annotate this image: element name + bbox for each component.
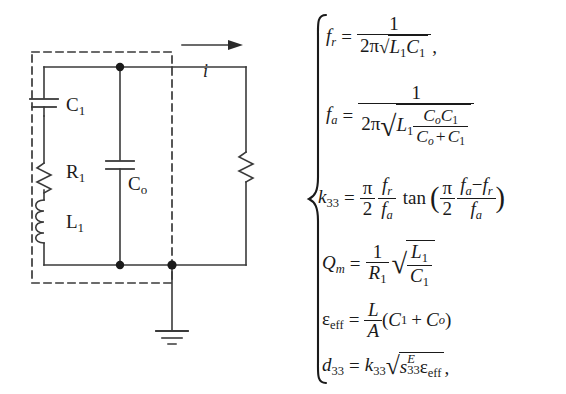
qm-one-over-r1: 1 R1 bbox=[366, 242, 390, 286]
circuit-diagram: C1 R1 L1 Co i bbox=[0, 0, 300, 394]
k33-inner-pi-over-2: π 2 bbox=[440, 178, 456, 219]
fr-denominator: 2π√L1C1 bbox=[357, 34, 431, 60]
epseff-co: C bbox=[426, 309, 439, 331]
equation-fa: fa = 1 2π√L1CoC1Co+C1 bbox=[326, 83, 474, 148]
epseff-l: L bbox=[364, 300, 382, 320]
k33-delta-fraction: fa−fr fa bbox=[457, 175, 495, 222]
qm-radical: √L1C1 bbox=[391, 240, 435, 289]
equation-qm: Qm = 1 R1 √L1C1 bbox=[322, 240, 435, 289]
k33-inner-two: 2 bbox=[440, 198, 456, 219]
fr-trailing-comma: , bbox=[431, 36, 437, 60]
qm-equals: = bbox=[345, 253, 366, 275]
current-arrow-head bbox=[228, 40, 243, 50]
k33-pi: π bbox=[360, 178, 376, 198]
junction-dot-bottom-co bbox=[116, 261, 124, 269]
epseff-c1: C bbox=[388, 309, 401, 331]
equation-d33: d33 = k33 √sE33εeff , bbox=[322, 351, 449, 381]
equation-fr: fr = 1 2π√L1C1 , bbox=[326, 14, 437, 60]
circuit-svg: C1 R1 L1 Co i bbox=[0, 0, 300, 394]
fa-lhs: fa bbox=[326, 103, 338, 128]
fa-numerator: 1 bbox=[358, 83, 474, 103]
fr-fraction: 1 2π√L1C1 bbox=[357, 14, 431, 60]
d33-equals: = bbox=[344, 355, 365, 377]
fa-equals: = bbox=[338, 105, 359, 127]
fr-numerator: 1 bbox=[357, 14, 431, 34]
label-co: Co bbox=[128, 173, 147, 197]
k33-equals: = bbox=[339, 187, 360, 209]
fa-inner-den: Co+C1 bbox=[413, 126, 468, 148]
k33-lhs: k33 bbox=[318, 186, 339, 211]
load-resistor-zigzag bbox=[239, 152, 253, 182]
k33-fa: fa bbox=[378, 198, 396, 222]
label-r1: R1 bbox=[66, 161, 85, 185]
k33-paren-close: ) bbox=[496, 182, 506, 214]
qm-c1: C1 bbox=[407, 265, 432, 289]
qm-l1: L1 bbox=[407, 242, 432, 265]
d33-k33: k33 bbox=[365, 354, 386, 379]
fa-denominator: 2π√L1CoC1Co+C1 bbox=[358, 103, 474, 148]
qm-r1: R1 bbox=[366, 262, 390, 286]
epseff-lhs: εeff bbox=[322, 308, 344, 333]
equation-eps-eff: εeff = L A ( C1 + Co ) bbox=[322, 300, 451, 341]
label-c1: C1 bbox=[66, 94, 85, 118]
equation-group: fr = 1 2π√L1C1 , fa = 1 2π√L1CoC1Co+C1 k… bbox=[300, 0, 566, 394]
k33-delta-den: fa bbox=[457, 198, 495, 222]
label-current-i: i bbox=[203, 61, 208, 81]
fa-radicand: L1CoC1Co+C1 bbox=[396, 104, 472, 148]
k33-tan: tan bbox=[396, 187, 430, 209]
epseff-equals: = bbox=[344, 309, 365, 331]
junction-dot-top bbox=[116, 63, 124, 71]
fa-inner-fraction: CoC1Co+C1 bbox=[413, 106, 468, 148]
d33-radicand: sE33εeff bbox=[399, 352, 445, 381]
d33-radical: √sE33εeff bbox=[386, 351, 445, 381]
fr-equals: = bbox=[336, 26, 357, 48]
dashed-boundary-box bbox=[32, 52, 172, 283]
junction-dot-ground bbox=[167, 260, 176, 269]
qm-radical-sign: √ bbox=[391, 248, 407, 280]
fa-fraction: 1 2π√L1CoC1Co+C1 bbox=[358, 83, 474, 148]
k33-inner-pi: π bbox=[440, 178, 456, 198]
qm-radicand: L1C1 bbox=[406, 240, 435, 289]
d33-trailing-comma: , bbox=[444, 357, 449, 381]
epseff-l-over-a: L A bbox=[364, 300, 382, 341]
qm-inner-fraction: L1C1 bbox=[407, 242, 432, 289]
d33-radical-sign: √ bbox=[386, 351, 400, 381]
label-l1: L1 bbox=[66, 211, 84, 235]
fr-lhs: fr bbox=[326, 25, 336, 50]
d33-lhs: d33 bbox=[322, 354, 344, 379]
epseff-a: A bbox=[364, 320, 382, 341]
qm-one: 1 bbox=[366, 242, 390, 262]
k33-paren-open: ( bbox=[430, 182, 440, 214]
k33-pi-over-2: π 2 bbox=[360, 178, 376, 219]
r1-resistor-zigzag bbox=[37, 163, 51, 193]
fa-radical-sign: √ bbox=[380, 111, 396, 142]
equation-k33: k33 = π 2 fr fa tan ( π 2 fa−fr fa ) bbox=[318, 175, 505, 222]
k33-fr-over-fa: fr fa bbox=[378, 175, 396, 222]
qm-lhs: Qm bbox=[322, 252, 345, 277]
k33-fr: fr bbox=[378, 175, 396, 198]
epseff-plus: + bbox=[407, 309, 426, 331]
k33-delta-num: fa−fr bbox=[457, 175, 495, 198]
fa-inner-num: CoC1 bbox=[413, 106, 468, 127]
d33-s-sub-sup: E33 bbox=[407, 354, 420, 377]
epseff-paren-close: ) bbox=[445, 309, 451, 331]
l1-inductor-coil bbox=[36, 200, 44, 243]
fr-radicand: L1C1 bbox=[388, 35, 428, 60]
k33-two: 2 bbox=[360, 198, 376, 219]
